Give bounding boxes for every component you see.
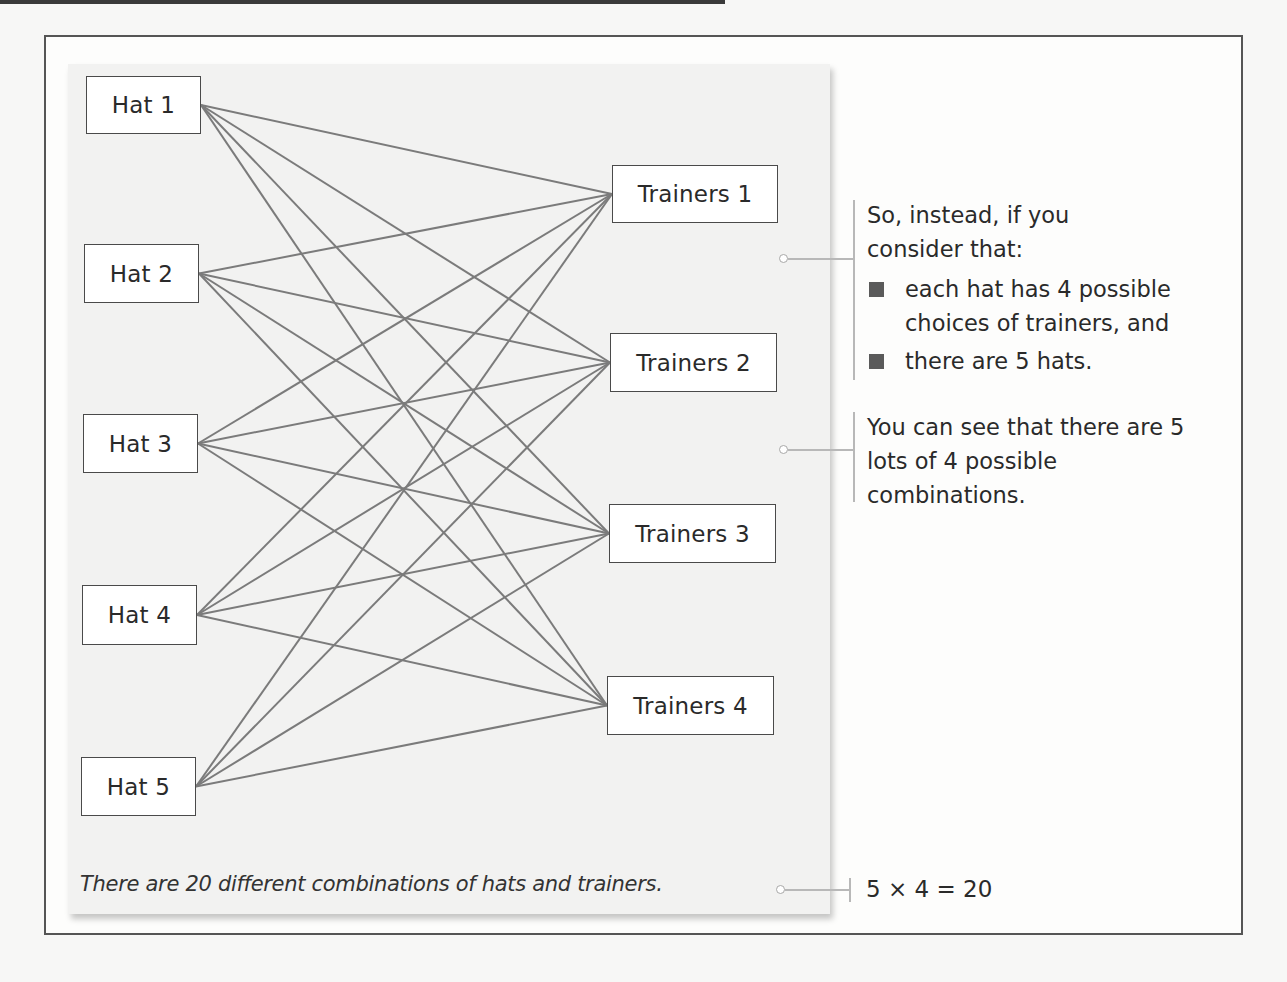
equation: 5 × 4 = 20 [866, 876, 992, 902]
hat-box-4: Hat 4 [82, 585, 197, 645]
trainer-box-3: Trainers 3 [609, 504, 776, 563]
note-bullet-2: there are 5 hats. [867, 344, 1227, 378]
hat-box-5: Hat 5 [81, 757, 196, 816]
annotation-bracket-2 [853, 412, 855, 502]
trainer-box-4: Trainers 4 [607, 676, 774, 735]
annotation-bracket-3 [849, 878, 851, 902]
hat-box-3: Hat 3 [83, 414, 198, 473]
annotation-dot-2 [779, 445, 788, 454]
hat-box-2: Hat 2 [84, 244, 199, 303]
diagram-caption: There are 20 different combinations of h… [80, 872, 663, 896]
hat-box-1: Hat 1 [86, 76, 201, 134]
square-bullet-icon [869, 354, 884, 369]
annotation-dot-3 [776, 885, 785, 894]
note-bullet-1: each hat has 4 possible choices of train… [867, 272, 1227, 340]
trainer-box-1: Trainers 1 [612, 165, 778, 223]
trainer-box-2: Trainers 2 [610, 333, 777, 392]
annotation-dot-1 [779, 254, 788, 263]
annotation-bracket-1 [853, 200, 855, 380]
annotation-connector-1 [788, 258, 854, 260]
square-bullet-icon [869, 282, 884, 297]
note-first: So, instead, if you consider that: each … [867, 198, 1227, 378]
annotation-connector-3 [785, 889, 849, 891]
note-second: You can see that there are 5 lots of 4 p… [867, 410, 1207, 512]
note-first-intro: So, instead, if you consider that: [867, 198, 1107, 266]
top-bar [0, 0, 725, 4]
annotation-connector-2 [788, 449, 854, 451]
